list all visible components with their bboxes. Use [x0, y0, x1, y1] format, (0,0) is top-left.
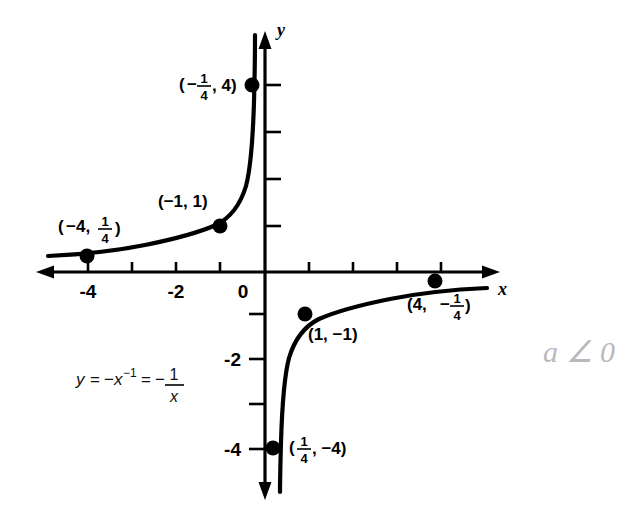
point-label-neg1-1: (−1, 1): [158, 192, 208, 211]
label-neg4-quarter-open: (: [58, 217, 64, 236]
y-tick-label--2: -2: [224, 349, 241, 370]
equation-minus-2: −: [155, 370, 165, 389]
x-axis-label: x: [497, 279, 507, 299]
label-4-negquarter-frac-denominator: 4: [453, 308, 461, 323]
point-marker-negquarter-4[interactable]: [245, 78, 260, 93]
graph-figure: y x -4 -2 0 -2 -4 ( −4, 1 4 ) (−1, 1): [0, 0, 635, 525]
point-marker-4-negquarter[interactable]: [428, 274, 443, 289]
point-label-4-negquarter: (4, − 1 4 ): [407, 291, 471, 323]
label-negquarter-4-frac-numerator: 1: [200, 71, 207, 86]
point-label-neg4-quarter: ( −4, 1 4 ): [58, 214, 121, 246]
origin-label: 0: [238, 281, 249, 302]
label-quarter-neg4-frac-denominator: 4: [300, 451, 308, 466]
x-tick-label--2: -2: [168, 281, 185, 302]
y-axis-bottom-arrowhead: [259, 482, 272, 500]
label-negquarter-4-neg: −: [187, 75, 197, 94]
axes-group: y x -4 -2 0 -2 -4: [36, 20, 507, 500]
equation-frac-numerator: 1: [170, 366, 179, 383]
equation-lhs: y: [75, 370, 86, 389]
equation-minus-1: −: [104, 370, 114, 389]
equation-label: y = − x −1 = − 1 x: [75, 366, 184, 405]
label-neg4-quarter-x: −4,: [66, 217, 90, 236]
label-quarter-neg4-frac-numerator: 1: [300, 434, 307, 449]
label-4-negquarter-close: ): [465, 296, 471, 315]
equation-frac-denominator: x: [169, 388, 179, 405]
coordinate-plane-svg: y x -4 -2 0 -2 -4 ( −4, 1 4 ) (−1, 1): [0, 0, 635, 525]
handwritten-note-a-less-than-zero: a ∠ 0: [543, 335, 615, 368]
y-axis-label: y: [275, 20, 286, 40]
point-marker-1-neg1[interactable]: [298, 307, 313, 322]
point-marker-neg1-1[interactable]: [213, 219, 228, 234]
equation-exponent: −1: [123, 366, 137, 380]
point-marker-quarter-neg4[interactable]: [266, 441, 281, 456]
point-label-quarter-neg4: ( 1 4 , −4): [289, 434, 347, 466]
point-label-1-neg1: (1, −1): [308, 325, 358, 344]
label-neg4-quarter-frac-denominator: 4: [101, 231, 109, 246]
x-axis-right-arrowhead: [482, 266, 500, 279]
y-axis-top-arrowhead: [259, 31, 272, 49]
curve-group: [48, 35, 487, 492]
label-negquarter-4-rest: , 4): [212, 76, 237, 95]
x-tick-label--4: -4: [80, 281, 97, 302]
label-negquarter-4-open: (: [179, 75, 185, 94]
point-marker-neg4-quarter[interactable]: [80, 249, 95, 264]
equation-base: x: [113, 370, 123, 389]
label-quarter-neg4-rest: , −4): [312, 439, 347, 458]
x-axis-left-arrowhead: [36, 266, 54, 279]
y-tick-label--4: -4: [224, 439, 241, 460]
label-4-negquarter-frac-numerator: 1: [453, 291, 460, 306]
label-4-negquarter-open: (4,: [407, 295, 427, 314]
equation-equals-1: =: [90, 370, 100, 389]
label-4-negquarter-neg: −: [440, 295, 450, 314]
label-neg4-quarter-close: ): [115, 219, 121, 238]
label-quarter-neg4-open: (: [289, 438, 295, 457]
equation-equals-2: =: [141, 370, 151, 389]
label-neg4-quarter-frac-numerator: 1: [101, 214, 108, 229]
label-negquarter-4-frac-denominator: 4: [200, 88, 208, 103]
point-label-negquarter-4: ( − 1 4 , 4): [179, 71, 237, 103]
